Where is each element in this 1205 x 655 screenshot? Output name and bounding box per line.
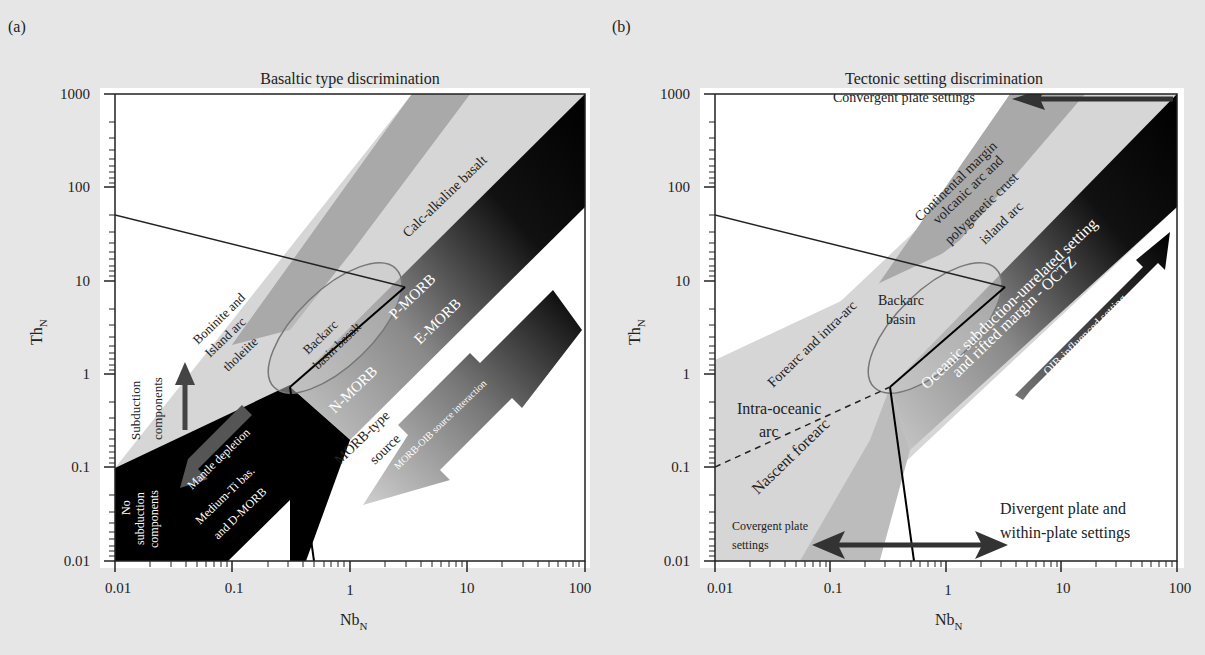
no-subduction-label-1: No [119, 500, 133, 515]
svg-text:10: 10 [675, 273, 690, 289]
intra-oceanic-label-2: arc [759, 423, 779, 440]
divergent-label-1: Divergent plate and [1000, 500, 1126, 518]
svg-text:0.01: 0.01 [707, 580, 733, 596]
panel-b-title: Tectonic setting discrimination [845, 70, 1043, 88]
panel-a-x-tick-labels: 0.01 0.1 1 10 100 [105, 580, 591, 598]
svg-text:1000: 1000 [660, 86, 690, 102]
svg-text:1: 1 [83, 366, 91, 382]
svg-text:1: 1 [944, 582, 952, 598]
figure-canvas: Basaltic type discrimination [0, 0, 1205, 655]
panel-a-xlabel: NbN [340, 611, 368, 632]
svg-text:10: 10 [460, 580, 475, 596]
svg-text:0.1: 0.1 [71, 459, 90, 475]
svg-text:100: 100 [569, 580, 592, 596]
svg-text:10: 10 [75, 273, 90, 289]
svg-text:1000: 1000 [60, 86, 90, 102]
panel-a: Basaltic type discrimination [28, 70, 591, 632]
svg-text:0.1: 0.1 [824, 580, 843, 596]
covergent-label-1: Covergent plate [732, 519, 808, 533]
svg-text:1: 1 [683, 366, 691, 382]
intra-oceanic-label-1: Intra-oceanic [737, 400, 821, 417]
svg-text:100: 100 [68, 179, 91, 195]
backarc-b-label-2: basin [886, 312, 916, 327]
svg-text:100: 100 [1169, 580, 1192, 596]
covergent-label-2: settings [732, 538, 769, 552]
subduction-label-1: Subduction [128, 380, 143, 440]
panel-b-x-tick-labels: 0.01 0.1 1 10 100 [707, 580, 1191, 598]
panel-a-y-tick-labels: 1000 100 10 1 0.1 0.01 [60, 86, 90, 569]
svg-text:100: 100 [668, 179, 691, 195]
svg-text:10: 10 [1056, 580, 1071, 596]
panel-b-xlabel: NbN [935, 611, 963, 632]
backarc-b-label-1: Backarc [878, 293, 924, 308]
svg-text:0.1: 0.1 [671, 459, 690, 475]
no-subduction-label-2: subduction [133, 492, 147, 545]
panel-b-ylabel: ThN [626, 319, 647, 345]
svg-text:0.01: 0.01 [664, 553, 690, 569]
panel-b: Tectonic setting discrimination [626, 70, 1191, 632]
divergent-label-2: within-plate settings [1000, 524, 1130, 542]
panel-a-title: Basaltic type discrimination [260, 70, 440, 88]
panel-a-ylabel: ThN [28, 319, 49, 345]
no-subduction-label-3: components [147, 490, 161, 548]
svg-text:1: 1 [346, 582, 354, 598]
svg-text:0.01: 0.01 [105, 580, 131, 596]
panel-b-y-tick-labels: 1000 100 10 1 0.1 0.01 [660, 86, 690, 569]
svg-text:0.01: 0.01 [64, 553, 90, 569]
subduction-label-2: components [150, 377, 165, 440]
svg-text:0.1: 0.1 [225, 580, 244, 596]
